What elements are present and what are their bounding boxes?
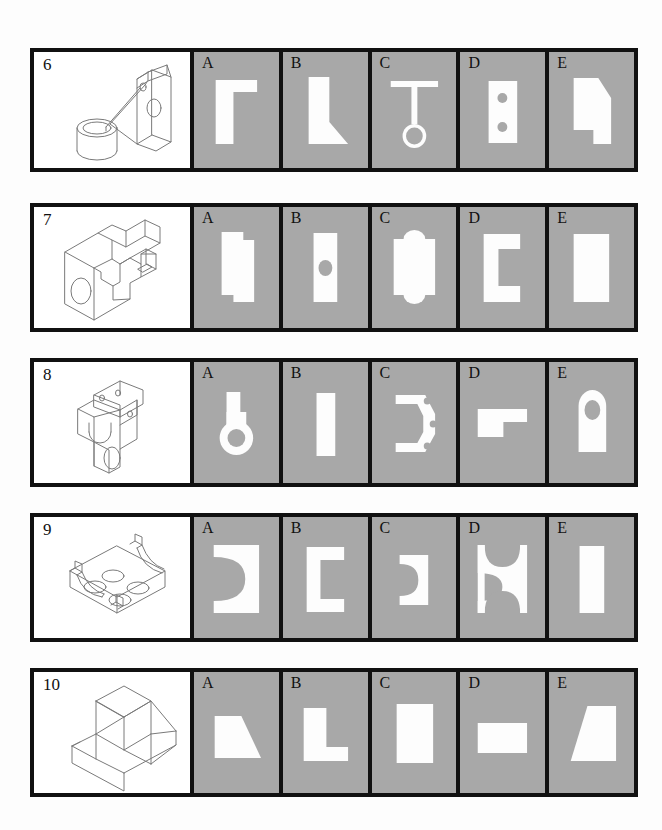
question-row-9: 9 [30, 513, 638, 642]
option-panel-7-A[interactable]: A [194, 207, 279, 328]
question-row-7: 7 [30, 203, 638, 332]
option-panel-8-D[interactable]: D [460, 362, 545, 483]
option-panel-10-B[interactable]: B [283, 672, 368, 793]
pictorial-view-7: 7 [34, 207, 190, 328]
question-row-6: 6 [30, 48, 638, 172]
question-row-8: 8 [30, 358, 638, 487]
option-panel-7-D[interactable]: D [460, 207, 545, 328]
option-panel-10-D[interactable]: D [460, 672, 545, 793]
question-row-10: 10 [30, 668, 638, 797]
pictorial-view-8: 8 [34, 362, 190, 483]
option-panel-9-C[interactable]: C [372, 517, 457, 638]
option-panel-6-A[interactable]: A [194, 52, 279, 168]
option-panel-8-A[interactable]: A [194, 362, 279, 483]
option-panel-6-B[interactable]: B [283, 52, 368, 168]
option-panel-7-E[interactable]: E [549, 207, 634, 328]
worksheet-sheet: 6 [0, 0, 662, 830]
option-panel-7-C[interactable]: C [372, 207, 457, 328]
pictorial-view-6: 6 [34, 52, 190, 168]
option-panel-8-E[interactable]: E [549, 362, 634, 483]
option-panel-9-D[interactable]: D [460, 517, 545, 638]
option-panel-10-E[interactable]: E [549, 672, 634, 793]
pictorial-view-10: 10 [34, 672, 190, 793]
option-panel-10-A[interactable]: A [194, 672, 279, 793]
option-panel-9-E[interactable]: E [549, 517, 634, 638]
option-panel-6-E[interactable]: E [549, 52, 634, 168]
option-panel-9-A[interactable]: A [194, 517, 279, 638]
option-panel-7-B[interactable]: B [283, 207, 368, 328]
option-panel-8-B[interactable]: B [283, 362, 368, 483]
option-panel-8-C[interactable]: C [372, 362, 457, 483]
pictorial-view-9: 9 [34, 517, 190, 638]
option-panel-10-C[interactable]: C [372, 672, 457, 793]
option-panel-9-B[interactable]: B [283, 517, 368, 638]
option-panel-6-C[interactable]: C [372, 52, 457, 168]
option-panel-6-D[interactable]: D [460, 52, 545, 168]
